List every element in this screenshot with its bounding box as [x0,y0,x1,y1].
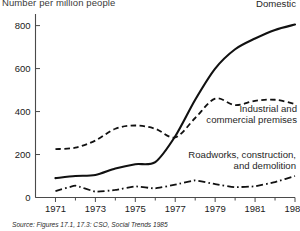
series-label-industrial-line1: Industrial and [239,103,297,114]
series-path-roadworks [55,176,295,192]
x-tick-label: 1973 [85,203,106,214]
y-axis-tick-labels: 0200400600800 [15,20,31,203]
x-axis-tick-labels: 1971197319751977197919811983 [45,203,300,214]
x-tick-label: 1983 [284,203,300,214]
series-label-domestic-text: Domestic [256,0,296,9]
x-tick-label: 1975 [125,203,146,214]
series-label-industrial: Industrial andcommercial premises [206,104,297,125]
series-label-industrial-line2: commercial premises [206,114,297,125]
y-tick-label: 200 [15,149,31,160]
x-tick-label: 1977 [165,203,186,214]
y-tick-label: 800 [15,20,31,31]
series-label-roadworks-line1: Roadworks, construction, [188,149,296,160]
y-tick-label: 600 [15,63,31,74]
x-tick-label: 1979 [205,203,226,214]
chart-container: Number per million people 0200400600800 … [0,0,300,231]
x-tick-label: 1971 [45,203,66,214]
x-tick-label: 1981 [245,203,266,214]
series-label-roadworks: Roadworks, construction,and demolition [188,150,296,171]
y-tick-label: 0 [25,192,30,203]
y-tick-label: 400 [15,106,31,117]
series-label-domestic: Domestic [256,0,296,10]
source-note: Source: Figures 17.1, 17.3: CSO, Social … [12,221,168,228]
series-label-roadworks-line2: and demolition [234,160,296,171]
